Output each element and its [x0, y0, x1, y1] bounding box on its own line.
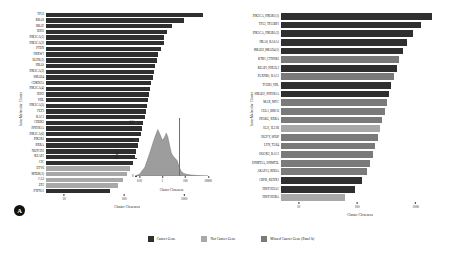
bar-row-label: MAX, MYC: [263, 101, 281, 104]
bar-row-label: CIC: [39, 161, 46, 164]
panel-b-bar-chart: PIK3CA, PIK3R1(1)TP53, TP53BP1PIK3CA, PI…: [281, 12, 439, 202]
bar-row: PLXNB1, RAC1: [281, 72, 439, 81]
bar-row-label: PIK3R1: [34, 138, 46, 141]
bar-row-label: BTRC,CTNNB1: [258, 58, 281, 61]
bar: [46, 104, 147, 108]
legend-label: Missed Cancer Gene (Panel b): [270, 237, 314, 241]
panel-b-x-axis-label: Cluster Closeness: [281, 213, 439, 217]
bar-row: SMAD2, PPP2R1A: [281, 90, 439, 99]
bar: [46, 81, 151, 85]
bar: [46, 75, 153, 79]
bar: [46, 18, 184, 22]
bar-row-label: TCEB1,VHL: [262, 84, 281, 87]
bar-row: HGF/Y, SPOP: [281, 133, 439, 142]
bar: [281, 160, 370, 167]
bar-row-label: VHL: [38, 99, 46, 102]
bar: [46, 52, 158, 56]
bar-row: HRAS, RASA1: [281, 38, 439, 47]
bar-row-label: HRAS, RASA1: [259, 41, 281, 44]
bar-row: TCEB1,VHL: [281, 81, 439, 90]
bar-row-label: PIK3CA(1): [30, 36, 46, 39]
bar: [281, 48, 403, 55]
bar: [281, 143, 375, 150]
bar-row-label: IDH2: [37, 93, 46, 96]
bar: [281, 125, 380, 132]
bar: [281, 91, 389, 98]
bar-row: AKAP13, RHOA: [281, 168, 439, 177]
bar-row-label: SMAD4: [34, 76, 47, 79]
bar: [281, 56, 399, 63]
x-tick: 100: [122, 194, 127, 201]
bar-row-label: HGF/Y, SPOP: [261, 136, 281, 139]
bar-row: CUL1, BIRC6: [281, 107, 439, 116]
bar: [46, 87, 150, 91]
inset-y-tick: 0.4: [130, 138, 135, 142]
bar: [46, 98, 148, 102]
legend-swatch: [261, 236, 267, 242]
panel-b: Intra-Molecular Cluster PIK3CA, PIK3R1(1…: [231, 0, 462, 218]
bar: [281, 13, 432, 20]
bar-row-label: TP53, TP53BP1: [259, 23, 281, 26]
bar-row-label: HIST1H3AC: [262, 188, 281, 191]
panel-a-inset-density: Density 00.20.40.6 0.01110010000 Cluster…: [118, 116, 210, 192]
bar: [281, 73, 394, 80]
panel-a-density-curve: [135, 118, 208, 176]
x-tick: 100: [355, 202, 360, 209]
x-tick: 1000: [413, 202, 419, 209]
bar: [281, 82, 391, 89]
inset-x-tick: 100: [183, 176, 188, 183]
bar-row-label: PIK3CA(3): [30, 70, 46, 73]
bar-row: PPARG, RXRA: [281, 116, 439, 125]
bar: [46, 30, 167, 34]
bar-row-label: CHEK2: [34, 121, 46, 124]
x-tick: 10: [297, 202, 300, 209]
bar-row-label: CBFB, RUNX1: [259, 179, 281, 182]
bar-row: BTRC,CTNNB1: [281, 55, 439, 64]
bar: [281, 186, 355, 193]
bar: [46, 24, 172, 28]
bar-row-label: FBXW7: [34, 53, 47, 56]
bar-row-label: DOCK2, RAC1: [259, 153, 281, 156]
bar-row-label: IDH1: [37, 30, 46, 33]
panel-a-y-axis-label: Intra-Molecular Cluster: [19, 92, 23, 126]
bar-row-label: CA3: [38, 178, 46, 181]
panel-a-inset-plot-area: 00.20.40.6 0.01110010000: [135, 118, 208, 176]
bar: [281, 108, 385, 115]
bar-row-label: KRAS: [36, 19, 46, 22]
bar: [281, 134, 378, 141]
bar-row: LYN, TLR4: [281, 142, 439, 151]
bar-row: HIST1H3AC: [281, 185, 439, 194]
bar: [46, 13, 203, 17]
panel-a-x-axis-label: Cluster Closeness: [46, 205, 208, 209]
bar-row-label: KEAP1: [34, 155, 46, 158]
inset-x-tick: 0.01: [137, 176, 142, 183]
bar-row-label: DNMT3A, DNMT3L: [252, 162, 281, 165]
legend-swatch: [148, 236, 154, 242]
x-tick: 1000: [181, 194, 187, 201]
bar-row-label: KEAP1,NFE2L2: [258, 67, 281, 70]
bar: [46, 64, 155, 68]
bar-row-label: TP53: [37, 13, 46, 16]
bar: [46, 41, 164, 45]
bar-row-label: PTEN: [36, 47, 46, 50]
bar-row: PIK3CA, PIK3R1(1): [281, 12, 439, 21]
bar-row: IL21, IL21R: [281, 124, 439, 133]
panel-a-inset-x-label: Cluster Closeness: [135, 188, 208, 192]
bar-row-label: RAC1: [36, 116, 46, 119]
bar-row-label: ZP2: [39, 184, 46, 187]
panel-a-tag: A: [14, 205, 25, 216]
bar-row-label: FLT3: [37, 110, 46, 113]
bar-row: HIST1H2BA: [281, 193, 439, 202]
bar-row: SMAD2,SMAD4(1): [281, 47, 439, 56]
bar: [281, 194, 345, 201]
bar: [281, 39, 407, 46]
bar: [46, 178, 123, 182]
bar: [281, 65, 397, 72]
bar-row-label: SMAD2,SMAD4(1): [254, 49, 281, 52]
bar: [281, 168, 367, 175]
bar-row-label: AKAP13, RHOA: [257, 170, 281, 173]
bar: [46, 70, 154, 74]
bar-row: KEAP1,NFE2L2: [281, 64, 439, 73]
bar-row-label: SMAD2, PPP2R1A: [254, 93, 281, 96]
bar: [46, 172, 127, 176]
